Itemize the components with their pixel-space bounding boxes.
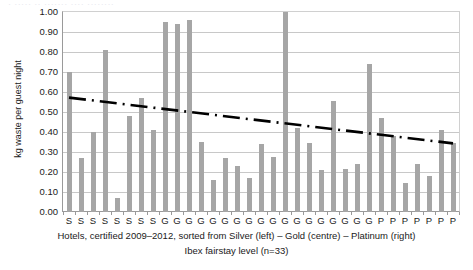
bar <box>439 130 444 212</box>
bar <box>367 64 372 212</box>
y-tick-label: 0.10 <box>28 187 58 197</box>
y-tick-label: 0.90 <box>28 27 58 37</box>
x-category-label: G <box>339 215 351 227</box>
bar <box>379 118 384 212</box>
x-category-label: P <box>411 215 423 227</box>
x-category-label: G <box>171 215 183 227</box>
x-category-label: G <box>195 215 207 227</box>
x-category-label: G <box>243 215 255 227</box>
cropped-title-remnant: · ····· ·· ······· ···· ········ <box>8 0 468 5</box>
bar <box>223 158 228 212</box>
x-category-label: S <box>135 215 147 227</box>
y-tick-label: 0.60 <box>28 87 58 97</box>
x-category-label: G <box>159 215 171 227</box>
bar <box>451 143 456 212</box>
bar <box>151 130 156 212</box>
bar <box>295 128 300 212</box>
bar <box>103 50 108 212</box>
bar <box>415 164 420 212</box>
bar <box>187 20 192 212</box>
x-category-label: S <box>123 215 135 227</box>
bar <box>175 24 180 212</box>
y-tick-label: 0.40 <box>28 127 58 137</box>
bar-series <box>63 12 459 212</box>
x-category-label: P <box>423 215 435 227</box>
x-category-label: P <box>375 215 387 227</box>
x-category-label: S <box>63 215 75 227</box>
x-category-label: G <box>219 215 231 227</box>
bar <box>403 183 408 212</box>
y-tick-label: 1.00 <box>28 7 58 17</box>
y-axis-tick-labels: 1.000.900.800.700.600.500.400.300.200.10… <box>22 0 58 212</box>
y-tick-label: 0.50 <box>28 107 58 117</box>
y-tick-label: 0.00 <box>28 207 58 217</box>
bar <box>235 166 240 212</box>
x-category-label: G <box>279 215 291 227</box>
bar <box>163 22 168 212</box>
x-axis-caption-line1: Hotels, certified 2009–2012, sorted from… <box>0 230 473 242</box>
bar <box>199 142 204 212</box>
bar <box>391 136 396 212</box>
bar <box>307 143 312 212</box>
x-category-label: S <box>87 215 99 227</box>
x-category-label: G <box>315 215 327 227</box>
bar <box>79 158 84 212</box>
x-category-label: P <box>387 215 399 227</box>
bar <box>211 180 216 212</box>
bar <box>343 169 348 212</box>
y-tick-label: 0.80 <box>28 47 58 57</box>
bar <box>67 72 72 212</box>
bar <box>139 98 144 212</box>
bar <box>91 132 96 212</box>
bar <box>283 12 288 212</box>
y-tick-label: 0.70 <box>28 67 58 77</box>
y-tick-label: 0.20 <box>28 167 58 177</box>
x-category-label: G <box>255 215 267 227</box>
bar <box>115 198 120 212</box>
waste-per-guest-night-bar-chart: · ····· ·· ······· ···· ········ kg wast… <box>0 0 473 270</box>
x-axis-caption-line2: Ibex fairstay level (n=33) <box>0 245 473 257</box>
x-category-label: G <box>363 215 375 227</box>
x-category-label: S <box>99 215 111 227</box>
x-category-label: G <box>351 215 363 227</box>
x-category-label: G <box>267 215 279 227</box>
x-category-label: S <box>147 215 159 227</box>
x-category-label: G <box>183 215 195 227</box>
x-category-label: G <box>207 215 219 227</box>
bar <box>355 164 360 212</box>
x-category-label: G <box>303 215 315 227</box>
x-category-label: G <box>327 215 339 227</box>
bar <box>427 176 432 212</box>
x-category-label: G <box>231 215 243 227</box>
y-tick-label: 0.30 <box>28 147 58 157</box>
bar <box>127 116 132 212</box>
x-category-label: S <box>75 215 87 227</box>
x-category-label: P <box>447 215 459 227</box>
x-tick-mark <box>459 212 460 215</box>
bar <box>271 157 276 212</box>
x-axis-category-labels: SSSSSSSSGGGGGGGGGGGGGGGGGGPPPPPPP <box>63 215 459 228</box>
bar <box>247 178 252 212</box>
bar <box>331 101 336 212</box>
x-category-label: S <box>111 215 123 227</box>
x-category-label: P <box>435 215 447 227</box>
bar <box>319 170 324 212</box>
x-category-label: P <box>399 215 411 227</box>
x-category-label: G <box>291 215 303 227</box>
bar <box>259 144 264 212</box>
